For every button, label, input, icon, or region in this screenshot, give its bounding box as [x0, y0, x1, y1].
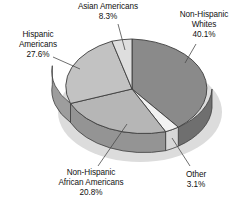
slice-label-hispanic-americans: Hispanic Americans 27.6% — [2, 30, 74, 61]
pie-chart-figure: Asian Americans 8.3% Non-Hispanic Whites… — [0, 0, 247, 207]
slice-label-hispanic-americans-value: 27.6% — [2, 50, 74, 60]
slice-label-hispanic-americans-name-2: Americans — [2, 40, 74, 50]
slice-label-non-hispanic-african-americans-name-2: African Americans — [32, 178, 150, 188]
slice-label-asian-americans-value: 8.3% — [68, 12, 148, 22]
slice-label-non-hispanic-whites-value: 40.1% — [165, 30, 243, 40]
slice-label-hispanic-americans-name-1: Hispanic — [2, 30, 74, 40]
slice-label-non-hispanic-whites-name-2: Whites — [165, 20, 243, 30]
slice-label-asian-americans-name: Asian Americans — [68, 2, 148, 12]
slice-label-non-hispanic-african-americans-value: 20.8% — [32, 188, 150, 198]
slice-label-non-hispanic-whites: Non-Hispanic Whites 40.1% — [165, 10, 243, 41]
slice-label-other: Other 3.1% — [168, 170, 224, 190]
slice-label-non-hispanic-african-americans-name-1: Non-Hispanic — [32, 168, 150, 178]
slice-label-other-value: 3.1% — [168, 180, 224, 190]
slice-label-other-name: Other — [168, 170, 224, 180]
slice-label-non-hispanic-whites-name-1: Non-Hispanic — [165, 10, 243, 20]
slice-label-non-hispanic-african-americans: Non-Hispanic African Americans 20.8% — [32, 168, 150, 199]
slice-label-asian-americans: Asian Americans 8.3% — [68, 2, 148, 22]
